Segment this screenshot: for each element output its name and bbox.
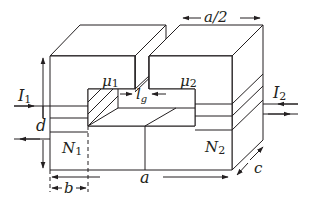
label-i2: I2: [272, 83, 286, 103]
label-a-half: a/2: [204, 8, 228, 26]
label-lg: lg: [136, 85, 147, 104]
magnetic-core-diagram: μ1 μ2 lg I1 I2 N1 N2 d a b c a/2: [0, 0, 312, 202]
label-c: c: [254, 159, 263, 177]
current-i2-leads: [263, 104, 298, 114]
label-i1: I1: [17, 86, 31, 106]
label-d: d: [36, 116, 46, 135]
label-b: b: [64, 179, 74, 197]
label-a: a: [140, 168, 150, 187]
